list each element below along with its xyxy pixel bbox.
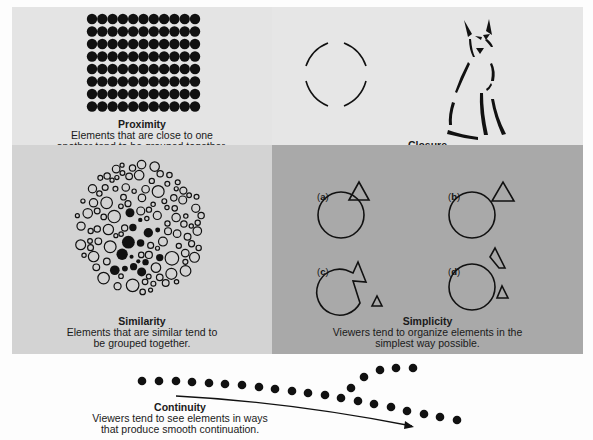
continuity-panel: Continuity Viewers tend to see elements …	[0, 354, 593, 440]
triangle-b-icon	[492, 182, 514, 201]
continuity-desc-2: that produce smooth continuation.	[101, 423, 259, 435]
broken-circle-icon	[306, 43, 366, 106]
closure-figures	[272, 7, 583, 145]
fragment-d-icon	[490, 248, 505, 268]
triangle-a-icon	[349, 182, 369, 200]
simplicity-desc-2: simplest way possible.	[375, 337, 479, 349]
simplicity-panel: (a) (b) (c) (d) Simplicity Viewers tend …	[272, 145, 583, 354]
arrowhead-icon	[404, 421, 414, 429]
similarity-caption: Similarity Elements that are similar ten…	[12, 316, 272, 349]
closure-panel: Closure Viewers tend to supply missing e…	[272, 7, 583, 145]
triangle-d-icon	[497, 286, 508, 298]
similarity-panel: Similarity Elements that are similar ten…	[12, 145, 272, 354]
label-c: (c)	[317, 266, 329, 277]
label-b: (b)	[448, 191, 460, 202]
similarity-desc-2: be grouped together.	[94, 337, 191, 349]
label-d: (d)	[448, 266, 460, 277]
triangle-c-icon	[372, 296, 382, 306]
continuity-caption: Continuity Viewers tend to see elements …	[80, 402, 280, 435]
cat-silhouette-icon	[447, 19, 506, 140]
label-a: (a)	[317, 191, 329, 202]
proximity-panel: Proximity Elements that are close to one…	[12, 7, 272, 145]
simplicity-caption: Simplicity Viewers tend to organize elem…	[272, 316, 583, 349]
